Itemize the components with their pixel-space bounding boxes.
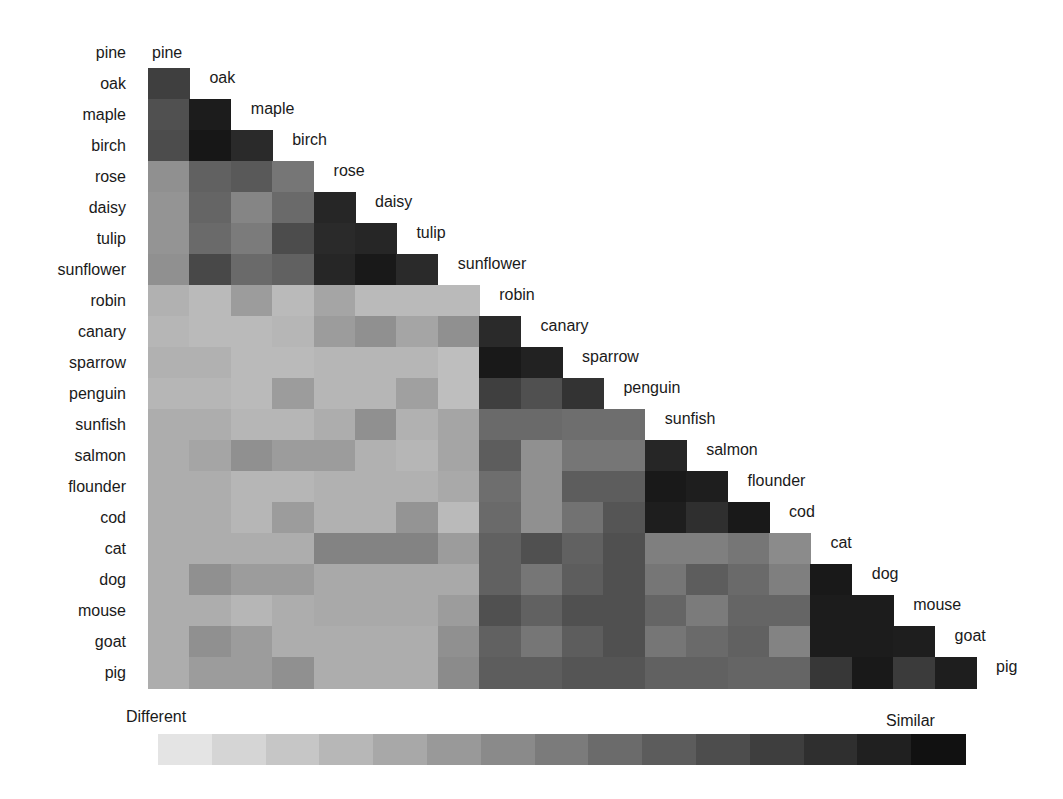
heatmap-cell xyxy=(148,99,190,131)
heatmap-cell xyxy=(438,378,480,410)
heatmap-cell xyxy=(438,409,480,441)
heatmap-cell xyxy=(231,316,273,348)
heatmap-cell xyxy=(728,564,770,596)
heatmap-cell xyxy=(272,378,314,410)
heatmap-cell xyxy=(645,564,687,596)
heatmap-cell xyxy=(479,502,521,534)
diagonal-label: oak xyxy=(209,62,235,93)
heatmap-cell xyxy=(396,440,438,472)
colorbar-segment xyxy=(266,734,320,765)
heatmap-cell xyxy=(148,409,190,441)
heatmap-cell xyxy=(562,471,604,503)
heatmap-cell xyxy=(603,502,645,534)
heatmap-cell xyxy=(438,533,480,565)
heatmap-cell xyxy=(189,99,231,131)
heatmap-cell xyxy=(396,626,438,658)
heatmap-cell xyxy=(521,440,563,472)
heatmap-cell xyxy=(189,595,231,627)
heatmap-cell xyxy=(189,378,231,410)
heatmap-cell xyxy=(148,316,190,348)
heatmap-cell xyxy=(231,192,273,224)
colorbar-segment xyxy=(373,734,427,765)
heatmap-cell xyxy=(231,223,273,255)
heatmap-cell xyxy=(189,502,231,534)
heatmap-cell xyxy=(686,564,728,596)
colorbar-segment xyxy=(588,734,642,765)
heatmap-cell xyxy=(686,626,728,658)
heatmap-cell xyxy=(521,657,563,689)
heatmap-cell xyxy=(314,378,356,410)
heatmap-cell xyxy=(728,502,770,534)
heatmap-cell xyxy=(521,409,563,441)
heatmap-cell xyxy=(355,533,397,565)
heatmap-cell xyxy=(148,68,190,100)
heatmap-cell xyxy=(231,378,273,410)
heatmap-cell xyxy=(272,254,314,286)
row-label: penguin xyxy=(0,378,126,409)
heatmap-cell xyxy=(438,285,480,317)
heatmap-cell xyxy=(272,161,314,193)
heatmap-cell xyxy=(272,502,314,534)
heatmap-cell xyxy=(189,316,231,348)
heatmap-cell xyxy=(314,657,356,689)
heatmap-cell xyxy=(148,378,190,410)
heatmap-cell xyxy=(562,378,604,410)
heatmap-cell xyxy=(314,471,356,503)
heatmap-cell xyxy=(521,626,563,658)
heatmap-cell xyxy=(314,626,356,658)
heatmap-cell xyxy=(686,502,728,534)
heatmap-cell xyxy=(231,471,273,503)
row-label: mouse xyxy=(0,595,126,626)
heatmap-cell xyxy=(189,440,231,472)
heatmap-cell xyxy=(189,564,231,596)
heatmap-cell xyxy=(852,657,894,689)
heatmap-cell xyxy=(810,626,852,658)
row-label: daisy xyxy=(0,192,126,223)
row-label: tulip xyxy=(0,223,126,254)
diagonal-label: cod xyxy=(789,496,815,527)
heatmap-cell xyxy=(396,347,438,379)
heatmap-cell xyxy=(231,533,273,565)
heatmap-cell xyxy=(355,626,397,658)
heatmap-cell xyxy=(272,564,314,596)
heatmap-cell xyxy=(438,502,480,534)
diagonal-label: sunfish xyxy=(665,403,716,434)
heatmap-cell xyxy=(189,130,231,162)
heatmap-cell xyxy=(562,564,604,596)
heatmap-cell xyxy=(231,440,273,472)
heatmap-cell xyxy=(231,595,273,627)
heatmap-cell xyxy=(728,657,770,689)
heatmap-cell xyxy=(314,409,356,441)
heatmap-cell xyxy=(355,378,397,410)
diagonal-label: flounder xyxy=(748,465,806,496)
diagonal-label: tulip xyxy=(416,217,445,248)
heatmap-cell xyxy=(189,409,231,441)
diagonal-label: goat xyxy=(955,620,986,651)
heatmap-cell xyxy=(521,378,563,410)
heatmap-cell xyxy=(769,564,811,596)
heatmap-cell xyxy=(189,347,231,379)
heatmap-cell xyxy=(852,626,894,658)
heatmap-cell xyxy=(355,595,397,627)
heatmap-cell xyxy=(562,533,604,565)
heatmap-cell xyxy=(521,471,563,503)
heatmap-cell xyxy=(479,347,521,379)
heatmap-cell xyxy=(231,409,273,441)
heatmap-cell xyxy=(686,471,728,503)
colorbar-segment xyxy=(481,734,535,765)
heatmap-cell xyxy=(231,161,273,193)
colorbar-segment xyxy=(696,734,750,765)
heatmap-cell xyxy=(438,316,480,348)
row-label: cat xyxy=(0,533,126,564)
heatmap-cell xyxy=(355,347,397,379)
heatmap-cell xyxy=(645,657,687,689)
heatmap-cell xyxy=(314,347,356,379)
heatmap-cell xyxy=(272,595,314,627)
heatmap-cell xyxy=(148,130,190,162)
colorbar-segment xyxy=(642,734,696,765)
heatmap-cell xyxy=(810,657,852,689)
diagonal-label: birch xyxy=(292,124,327,155)
heatmap-cell xyxy=(189,285,231,317)
heatmap-cell xyxy=(396,471,438,503)
heatmap-cell xyxy=(396,254,438,286)
